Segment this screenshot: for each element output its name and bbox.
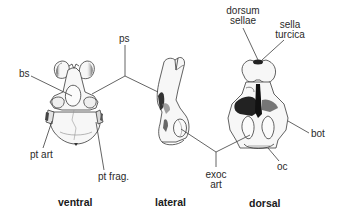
label-pt-frag: pt frag. (98, 172, 129, 182)
ventral-view-drawing (45, 61, 103, 146)
label-ps: ps (119, 34, 130, 44)
label-dorsum-sellae: dorsum sellae (226, 6, 260, 26)
label-sella-turcica-line2: turcica (272, 30, 308, 40)
label-sella-turcica: sella turcica (272, 20, 308, 40)
label-dorsum-sellae-line2: sellae (226, 16, 260, 26)
label-bot: bot (311, 129, 325, 139)
braincase-figure: ps bs dorsum sellae sella turcica pt art… (0, 0, 342, 221)
label-exoc-art-line2: art (204, 180, 228, 190)
dorsal-view-drawing (228, 60, 288, 149)
lateral-view-drawing (157, 57, 189, 144)
label-exoc-art: exoc art (204, 170, 228, 190)
view-title-lateral: lateral (155, 197, 186, 208)
view-title-ventral: ventral (58, 197, 92, 208)
view-title-dorsal: dorsal (249, 198, 281, 209)
label-pt-art: pt art (30, 150, 53, 160)
label-oc: oc (277, 162, 288, 172)
label-bs: bs (19, 69, 30, 79)
